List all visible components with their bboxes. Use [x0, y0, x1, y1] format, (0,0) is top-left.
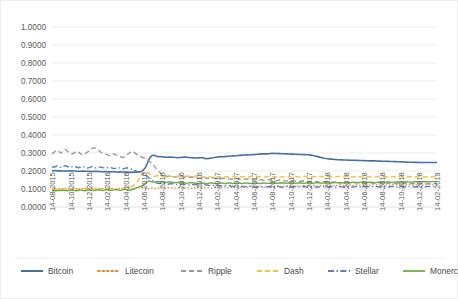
line-chart: 0.00000.10000.20000.30000.40000.50000.60…	[0, 0, 458, 299]
y-axis-tick-label: 0.0000	[21, 203, 46, 212]
x-axis-tick-label: 14-10-2016	[177, 172, 186, 211]
y-axis-labels: 0.00000.10000.20000.30000.40000.50000.60…	[21, 23, 46, 212]
y-axis-tick-label: 0.3000	[21, 149, 46, 158]
legend-label-bitcoin[interactable]: Bitcoin	[48, 266, 73, 276]
x-axis-tick-label: 14-12-2015	[85, 172, 94, 211]
x-axis-tick-label: 14-04-2016	[122, 172, 131, 211]
x-axis-tick-label: 14-06-2017	[250, 172, 259, 211]
x-axis-tick-label: 14-08-2018	[378, 172, 387, 211]
x-axis-tick-label: 14-10-2015	[67, 172, 76, 211]
y-axis-tick-label: 0.6000	[21, 95, 46, 104]
y-axis-tick-label: 1.0000	[21, 23, 46, 32]
x-axis-tick-label: 14-04-2017	[232, 172, 241, 211]
x-axis-tick-label: 14-02-2018	[323, 172, 332, 211]
chart-legend[interactable]: BitcoinLitecoinRippleDashStellarMonero	[21, 266, 458, 276]
x-axis-tick-label: 14-12-2018	[415, 172, 424, 211]
legend-label-ripple[interactable]: Ripple	[208, 266, 232, 276]
x-axis-tick-label: 14-08-2016	[158, 172, 167, 211]
x-axis-tick-label: 14-10-2018	[397, 172, 406, 211]
y-axis-tick-label: 0.7000	[21, 77, 46, 86]
x-axis-tick-label: 14-12-2017	[305, 172, 314, 211]
x-axis-labels: 14-08-201514-10-201514-12-201514-02-2016…	[48, 172, 442, 211]
legend-label-stellar[interactable]: Stellar	[355, 266, 379, 276]
y-axis-tick-label: 0.4000	[21, 131, 46, 140]
x-axis-tick-label: 14-02-2016	[103, 172, 112, 211]
x-axis-tick-label: 14-08-2015	[48, 172, 57, 211]
legend-label-dash[interactable]: Dash	[284, 266, 304, 276]
legend-label-litecoin[interactable]: Litecoin	[125, 266, 154, 276]
x-axis-tick-label: 14-10-2017	[287, 172, 296, 211]
x-axis-tick-label: 14-06-2018	[360, 172, 369, 211]
y-axis-tick-label: 0.9000	[21, 41, 46, 50]
y-axis-tick-label: 0.2000	[21, 167, 46, 176]
y-axis-tick-label: 0.8000	[21, 59, 46, 68]
chart-container: 0.00000.10000.20000.30000.40000.50000.60…	[0, 0, 458, 299]
x-axis-tick-label: 14-12-2016	[195, 172, 204, 211]
x-axis-tick-label: 14-06-2016	[140, 172, 149, 211]
x-axis-tick-label: 14-04-2018	[342, 172, 351, 211]
x-axis-tick-label: 14-08-2017	[268, 172, 277, 211]
y-axis-tick-label: 0.1000	[21, 185, 46, 194]
x-axis-tick-label: 14-02-2017	[213, 172, 222, 211]
y-axis-tick-label: 0.5000	[21, 113, 46, 122]
x-axis-tick-label: 14-02-2019	[433, 172, 442, 211]
legend-label-monero[interactable]: Monero	[430, 266, 458, 276]
